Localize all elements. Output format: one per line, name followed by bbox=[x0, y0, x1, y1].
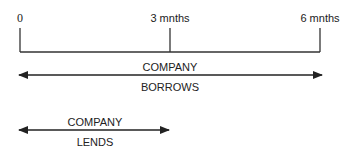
tick-label-6-months: 6 mnths bbox=[300, 12, 339, 24]
lend-arrow-bottom-label: LENDS bbox=[77, 136, 114, 148]
borrow-arrow-top-label: COMPANY bbox=[143, 61, 198, 73]
tick-label-0: 0 bbox=[17, 12, 23, 24]
lend-arrow-top-label: COMPANY bbox=[68, 116, 123, 128]
tick-label-3-months: 3 mnths bbox=[150, 12, 189, 24]
timeline-axis bbox=[20, 28, 320, 52]
borrow-arrow-bottom-label: BORROWS bbox=[141, 81, 199, 93]
